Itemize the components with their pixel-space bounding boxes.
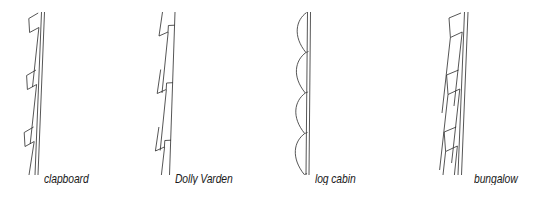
siding-profiles-figure: clapboard Dolly Varden xyxy=(0,0,543,199)
siding-panel-clapboard: clapboard xyxy=(0,0,133,199)
caption-dolly-varden: Dolly Varden xyxy=(175,171,233,185)
caption-log-cabin: log cabin xyxy=(315,171,356,185)
siding-panel-dolly-varden: Dolly Varden xyxy=(131,0,264,199)
bungalow-drawing xyxy=(414,0,543,199)
dolly-varden-drawing xyxy=(131,0,264,199)
caption-bungalow: bungalow xyxy=(474,171,518,185)
log-cabin-drawing xyxy=(261,0,394,199)
siding-panel-bungalow: bungalow xyxy=(414,0,543,199)
clapboard-drawing xyxy=(0,0,133,199)
caption-clapboard: clapboard xyxy=(44,171,89,185)
siding-panel-log-cabin: log cabin xyxy=(261,0,394,199)
